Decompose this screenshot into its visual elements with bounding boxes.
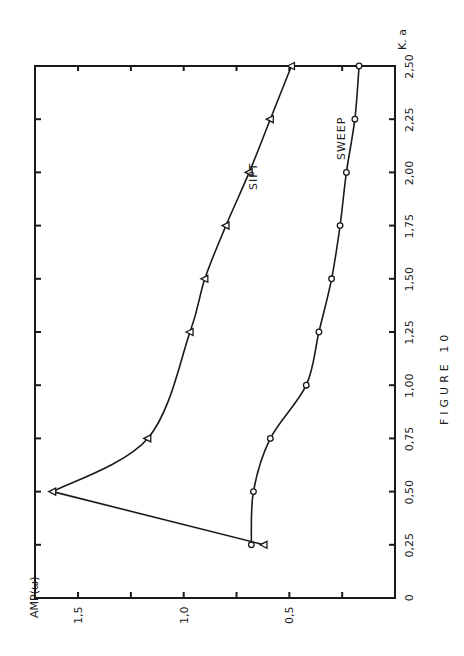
series-label-sweep: SWEEP: [335, 117, 348, 160]
circle-marker-icon: [352, 116, 358, 122]
x-tick-label: 0: [403, 594, 416, 601]
x-tick-label: 0,75: [403, 427, 416, 452]
circle-marker-icon: [303, 382, 309, 388]
triangle-marker-icon: [186, 329, 193, 336]
circle-marker-icon: [251, 489, 257, 495]
x-tick-label: 2,00: [403, 161, 416, 186]
triangle-marker-icon: [222, 222, 229, 229]
chart: 00,250,500,751,001,251,501,752,002,252,5…: [0, 0, 464, 656]
circle-marker-icon: [337, 223, 343, 229]
data-markers: [49, 63, 362, 549]
circle-marker-icon: [249, 542, 255, 548]
circle-marker-icon: [356, 63, 362, 69]
sipt-curve: [53, 66, 292, 492]
figure-label: FIGURE 10: [438, 331, 451, 425]
y-tick-label: 1,5: [72, 607, 85, 625]
data-curves: [53, 66, 359, 545]
series-label-sipt: SIPT: [247, 162, 260, 190]
y-tick-label: 1,0: [178, 607, 191, 625]
x-tick-label: 0,50: [403, 480, 416, 505]
sipt-line-segment: [53, 492, 264, 545]
x-tick-label: 1,25: [403, 320, 416, 345]
x-tick-label: 1,75: [403, 214, 416, 239]
triangle-marker-icon: [49, 488, 56, 495]
x-tick-label: 2,25: [403, 108, 416, 133]
x-tick-label: 1,50: [403, 267, 416, 292]
triangle-marker-icon: [201, 275, 208, 282]
circle-marker-icon: [329, 276, 335, 282]
x-axis-label: K. a: [396, 29, 409, 50]
y-axis-label: AMP(ω): [28, 577, 41, 618]
x-tick-label: 2,50: [403, 54, 416, 79]
y-tick-label: 0,5: [283, 607, 296, 625]
x-tick-label: 0,25: [403, 533, 416, 558]
triangle-marker-icon: [260, 541, 267, 548]
triangle-marker-icon: [266, 116, 273, 123]
x-tick-label: 1,00: [403, 374, 416, 399]
circle-marker-icon: [316, 329, 322, 335]
circle-marker-icon: [268, 436, 274, 442]
circle-marker-icon: [344, 170, 350, 176]
axis-labels: 00,250,500,751,001,251,501,752,002,252,5…: [72, 54, 416, 624]
